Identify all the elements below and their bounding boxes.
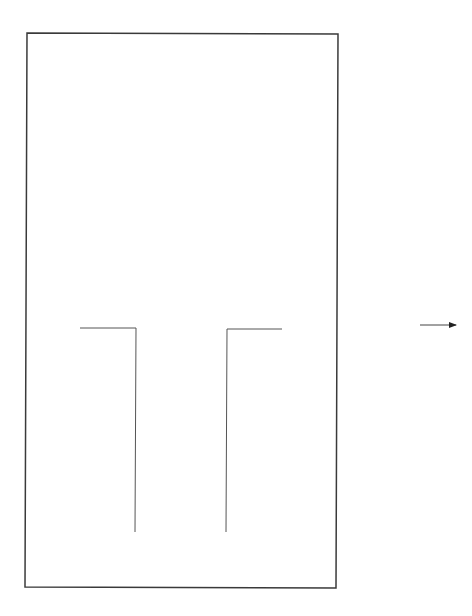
outer-frame [25, 33, 338, 588]
diagram-canvas [0, 0, 472, 616]
left-bracket-line [80, 328, 136, 532]
right-bracket-line [226, 329, 282, 532]
